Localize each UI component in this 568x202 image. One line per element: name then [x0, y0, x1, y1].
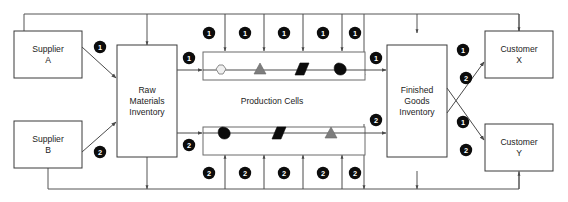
supplier-b-label-line2: B: [45, 145, 51, 155]
badge-label: 1: [374, 54, 378, 63]
badge-label: 2: [464, 74, 468, 83]
badge-raw-to-top-cell: 1: [183, 52, 195, 64]
node-customer-y[interactable]: Customer Y: [485, 124, 553, 171]
badge-label: 1: [282, 29, 286, 38]
badge-label: 2: [464, 146, 468, 155]
badge-label: 2: [321, 169, 325, 178]
badge-label: 1: [321, 29, 325, 38]
customer-x-label-line2: X: [516, 55, 522, 65]
badge-label: 1: [98, 43, 102, 52]
node-supplier-a[interactable]: Supplier A: [14, 31, 82, 78]
badge-raw-to-bottom-cell: 2: [183, 139, 195, 151]
finished-goods-label-line1: Finished: [401, 85, 434, 95]
raw-materials-label-line1: Raw: [138, 85, 156, 95]
top-badge-3: 1: [317, 27, 329, 39]
badge-supplier-a-to-raw: 1: [94, 41, 106, 53]
top-badge-row: 1 1 1 1 1: [203, 27, 361, 39]
badge-label: 1: [207, 29, 211, 38]
finished-goods-label-line3: Inventory: [399, 107, 435, 117]
node-raw-materials-inventory[interactable]: Raw Materials Inventory: [117, 45, 177, 157]
node-customer-x[interactable]: Customer X: [485, 31, 553, 78]
top-badge-1: 1: [239, 27, 251, 39]
badge-label: 2: [282, 169, 286, 178]
customer-y-label-line1: Customer: [500, 137, 537, 147]
supply-chain-diagram: Production Cells Supplier A Supplier B R…: [0, 0, 568, 202]
arrow-finished-to-customer-x: [447, 62, 484, 113]
production-cells-label: Production Cells: [241, 96, 304, 106]
supplier-a-label-line2: A: [45, 55, 51, 65]
badge-label: 2: [207, 169, 211, 178]
node-supplier-b[interactable]: Supplier B: [14, 121, 82, 168]
supplier-b-label-line1: Supplier: [32, 134, 64, 144]
badge-label: 1: [461, 118, 465, 127]
bottom-badge-row: 2 2 2 2 2: [203, 167, 361, 179]
badge-label: 1: [187, 54, 191, 63]
bottom-badge-3: 2: [317, 167, 329, 179]
raw-materials-label-line3: Inventory: [129, 107, 165, 117]
top-badge-4: 1: [349, 27, 361, 39]
finished-goods-label-line2: Goods: [404, 96, 429, 106]
node-finished-goods-inventory[interactable]: Finished Goods Inventory: [387, 45, 447, 157]
badge-label: 1: [461, 46, 465, 55]
customer-x-label-line1: Customer: [500, 44, 537, 54]
badge-label: 2: [187, 141, 191, 150]
supplier-a-label-line1: Supplier: [32, 44, 64, 54]
bottom-badge-0: 2: [203, 167, 215, 179]
badge-finished-to-customer-y: 1: [457, 116, 469, 128]
top-badge-2: 1: [278, 27, 290, 39]
arrow-finished-to-customer-y: [447, 88, 484, 140]
badge-label: 2: [353, 169, 357, 178]
raw-materials-label-line2: Materials: [130, 96, 165, 106]
bottom-badge-4: 2: [349, 167, 361, 179]
badge-customer-y-delivery: 2: [460, 144, 472, 156]
badge-label: 2: [243, 169, 247, 178]
badge-label: 2: [98, 148, 102, 157]
badge-supplier-b-to-raw: 2: [94, 146, 106, 158]
top-badge-0: 1: [203, 27, 215, 39]
badge-label: 1: [243, 29, 247, 38]
bottom-badge-2: 2: [278, 167, 290, 179]
badge-label: 2: [374, 116, 378, 125]
customer-y-label-line2: Y: [516, 148, 522, 158]
badge-customer-x-return: 2: [460, 72, 472, 84]
badge-label: 1: [353, 29, 357, 38]
bottom-badge-1: 2: [239, 167, 251, 179]
badge-finished-to-customer-x: 1: [457, 44, 469, 56]
badge-bottom-cell-to-finished: 2: [370, 114, 382, 126]
badge-top-cell-to-finished: 1: [370, 52, 382, 64]
